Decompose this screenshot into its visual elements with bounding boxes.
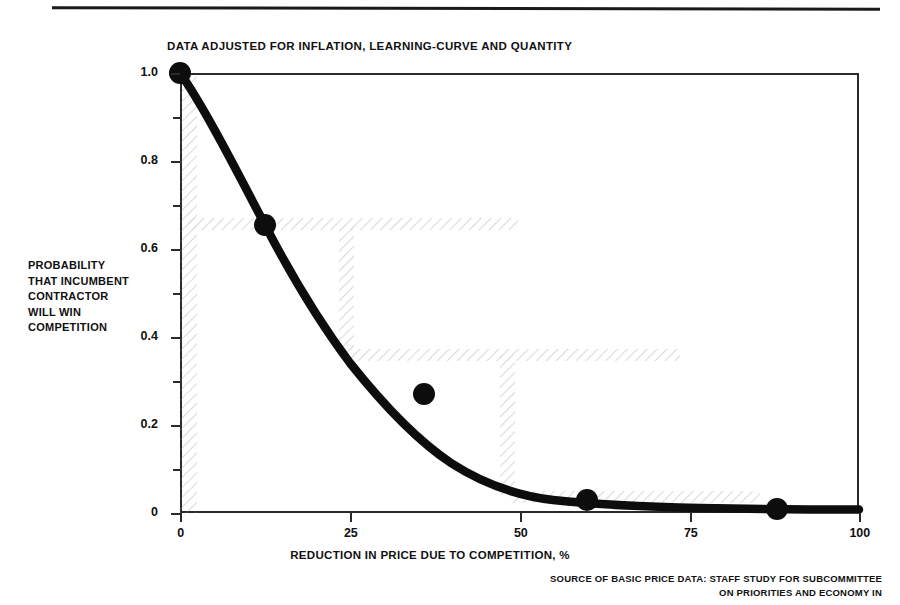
x-tick-50: 50 (520, 513, 522, 522)
y-tick-minor-0.3 (173, 381, 180, 383)
y-tick-0.6: 0.6 (171, 249, 180, 251)
curve-path (180, 73, 859, 510)
chart-title: DATA ADJUSTED FOR INFLATION, LEARNING-CU… (167, 40, 572, 52)
data-point-1 (254, 214, 276, 236)
y-tick-label-0.4: 0.4 (141, 329, 158, 343)
probability-decay-curve (180, 73, 859, 513)
x-tick-100: 100 (859, 513, 861, 522)
data-point-3 (576, 489, 598, 511)
y-tick-0.2: 0.2 (171, 425, 180, 427)
y-tick-label-1.0: 1.0 (141, 65, 158, 79)
y-axis-caption-line-4: WILL WIN (28, 305, 129, 321)
y-tick-minor-0.9 (173, 117, 180, 119)
x-tick-label-75: 75 (684, 526, 698, 540)
x-tick-25: 25 (350, 513, 352, 522)
y-axis-caption-line-5: COMPETITION (28, 320, 129, 336)
y-axis-caption-line-3: CONTRACTOR (28, 289, 129, 305)
plot-area: 1.0 0.8 0.6 0.4 0.2 0 0 25 50 75 100 (180, 73, 859, 513)
x-tick-75: 75 (690, 513, 692, 522)
y-tick-label-0.8: 0.8 (141, 153, 158, 167)
y-tick-label-0.2: 0.2 (141, 417, 158, 431)
y-tick-label-0: 0 (151, 505, 158, 519)
y-tick-0.4: 0.4 (171, 337, 180, 339)
x-tick-label-50: 50 (514, 526, 528, 540)
top-divider-rule (52, 6, 880, 11)
y-tick-0.8: 0.8 (171, 161, 180, 163)
source-note-line-1: SOURCE OF BASIC PRICE DATA: STAFF STUDY … (550, 572, 882, 586)
x-axis-caption: REDUCTION IN PRICE DUE TO COMPETITION, % (0, 549, 900, 561)
data-point-2 (413, 383, 435, 405)
source-note-line-2: ON PRIORITIES AND ECONOMY IN (550, 586, 882, 600)
x-tick-label-25: 25 (344, 526, 358, 540)
x-tick-0: 0 (180, 513, 182, 522)
source-note: SOURCE OF BASIC PRICE DATA: STAFF STUDY … (550, 572, 882, 599)
x-tick-label-0: 0 (177, 526, 184, 540)
x-tick-label-100: 100 (849, 526, 870, 540)
y-tick-0: 0 (171, 513, 180, 515)
y-tick-1.0: 1.0 (171, 73, 180, 75)
y-axis-caption-line-1: PROBABILITY (28, 258, 129, 274)
data-point-4 (766, 498, 788, 520)
y-tick-label-0.6: 0.6 (141, 241, 158, 255)
y-axis-caption-line-2: THAT INCUMBENT (28, 274, 129, 290)
y-tick-minor-0.5 (173, 293, 180, 295)
y-tick-minor-0.7 (173, 205, 180, 207)
y-tick-minor-0.1 (173, 469, 180, 471)
y-axis-caption: PROBABILITY THAT INCUMBENT CONTRACTOR WI… (28, 258, 129, 336)
